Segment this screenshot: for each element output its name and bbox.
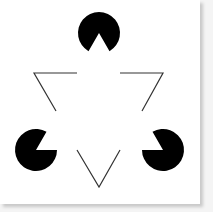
outline-right-corner: [120, 73, 163, 111]
outline-left-corner: [34, 73, 77, 111]
outline-bottom-corner: [77, 150, 120, 187]
pacman-right: [142, 129, 184, 171]
kanizsa-figure: [0, 0, 213, 212]
pacman-left: [15, 129, 57, 171]
pacman-top: [78, 12, 120, 51]
